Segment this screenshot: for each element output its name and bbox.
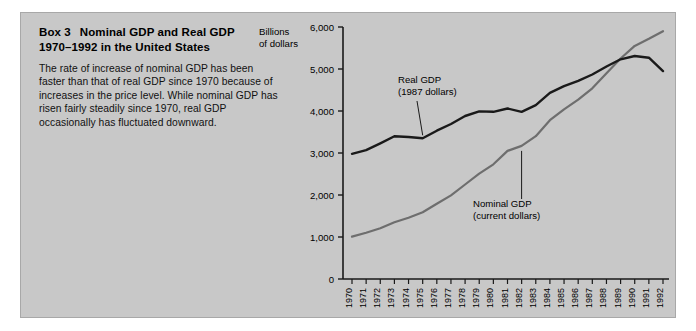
x-tick-label: 1972 bbox=[372, 288, 382, 308]
x-tick-label: 1978 bbox=[457, 288, 467, 308]
x-tick-label: 1973 bbox=[386, 288, 396, 308]
chart-svg: Billions of dollars 01,0002,0003,0004,00… bbox=[21, 13, 677, 319]
annotation-nominal-gdp-line2: (current dollars) bbox=[473, 210, 540, 221]
x-tick-label: 1983 bbox=[528, 288, 538, 308]
x-tick-label: 1988 bbox=[598, 288, 608, 308]
annotation-leader-real-gdp bbox=[417, 101, 423, 135]
x-tick-label: 1986 bbox=[570, 288, 580, 308]
annotation-real-gdp-line1: Real GDP bbox=[398, 74, 441, 85]
x-tick-label: 1979 bbox=[471, 288, 481, 308]
y-tick-label: 3,000 bbox=[310, 148, 334, 159]
x-tick-label: 1971 bbox=[358, 288, 368, 308]
annotation-nominal-gdp-line1: Nominal GDP bbox=[473, 198, 532, 209]
gdp-line-chart: Billions of dollars 01,0002,0003,0004,00… bbox=[21, 13, 677, 319]
series-line-real-gdp bbox=[352, 56, 663, 154]
y-axis-tick-labels: 01,0002,0003,0004,0005,0006,000 bbox=[310, 22, 334, 285]
x-tick-label: 1976 bbox=[429, 288, 439, 308]
y-tick-label: 6,000 bbox=[310, 22, 334, 33]
x-tick-label: 1975 bbox=[415, 288, 425, 308]
y-axis-label-line2: of dollars bbox=[259, 38, 298, 49]
x-tick-label: 1970 bbox=[344, 288, 354, 308]
x-tick-label: 1974 bbox=[401, 288, 411, 308]
x-tick-label: 1981 bbox=[500, 288, 510, 308]
y-tick-label: 5,000 bbox=[310, 64, 334, 75]
annotation-real-gdp-line2: (1987 dollars) bbox=[398, 86, 457, 97]
x-tick-label: 1992 bbox=[655, 288, 665, 308]
screenshot-root: Box 3Nominal GDP and Real GDP 1970–1992 … bbox=[0, 0, 696, 331]
y-tick-label: 1,000 bbox=[310, 232, 334, 243]
figure-panel: Box 3Nominal GDP and Real GDP 1970–1992 … bbox=[20, 12, 676, 318]
x-tick-label: 1985 bbox=[556, 288, 566, 308]
x-tick-label: 1984 bbox=[542, 288, 552, 308]
x-axis-tick-labels: 1970197119721973197419751976197719781979… bbox=[344, 288, 665, 308]
x-tick-label: 1980 bbox=[485, 288, 495, 308]
y-tick-label: 2,000 bbox=[310, 190, 334, 201]
y-tick-label: 0 bbox=[329, 274, 334, 285]
x-tick-label: 1987 bbox=[584, 288, 594, 308]
x-tick-label: 1982 bbox=[514, 288, 524, 308]
x-tick-label: 1991 bbox=[641, 288, 651, 308]
x-tick-label: 1977 bbox=[443, 288, 453, 308]
x-tick-label: 1990 bbox=[627, 288, 637, 308]
y-tick-label: 4,000 bbox=[310, 106, 334, 117]
x-tick-label: 1989 bbox=[613, 288, 623, 308]
y-axis-label-line1: Billions bbox=[259, 26, 290, 37]
